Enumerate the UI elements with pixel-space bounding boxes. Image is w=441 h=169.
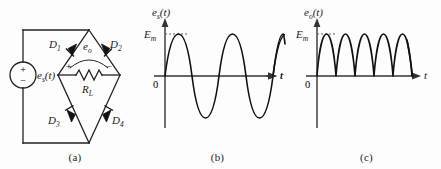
diode-d1-label: D1 xyxy=(48,38,61,53)
figure-container: + − es(t) D1 D2 xyxy=(0,0,441,169)
panel-c-y-axis-label: eo(t) xyxy=(304,6,323,21)
panel-b-x-axis-label-2: t xyxy=(280,69,284,81)
panel-c-rectified-curve xyxy=(317,34,412,76)
output-plus-sign: + xyxy=(66,61,72,72)
load-resistor-symbol xyxy=(76,70,102,80)
panel-b-caption: (b) xyxy=(140,151,295,163)
panel-c-x-axis-arrowhead xyxy=(412,73,421,80)
source-waveform-svg: es(t) t Em 0 t xyxy=(140,0,295,150)
output-minus-sign: − xyxy=(106,61,112,72)
bridge-circuit-svg: + − es(t) D1 D2 xyxy=(0,0,150,150)
panel-c-origin-label: 0 xyxy=(305,79,310,90)
panel-c-output-waveform: eo(t) t Em 0 (c) xyxy=(292,0,441,169)
diode-d3-label: D3 xyxy=(47,114,60,129)
panel-b-origin-label: 0 xyxy=(153,79,158,90)
branch-d4 xyxy=(89,75,120,143)
panel-a-circuit: + − es(t) D1 D2 xyxy=(0,0,150,169)
panel-c-trailing-stub xyxy=(407,40,413,76)
diode-d4-triangle xyxy=(103,110,111,122)
diode-d3-triangle xyxy=(67,110,75,122)
panel-b-y-axis-label: es(t) xyxy=(152,6,171,21)
panel-c-y-tick-label: Em xyxy=(295,28,309,43)
panel-a-caption: (a) xyxy=(0,151,150,163)
source-minus-sign: − xyxy=(20,75,26,86)
diode-d4-bar xyxy=(104,106,113,111)
output-voltage-label: eo xyxy=(83,40,92,55)
source-label: es(t) xyxy=(37,69,56,84)
diode-d4-label: D4 xyxy=(111,114,124,129)
panel-b-y-axis-arrowhead xyxy=(162,18,169,27)
load-resistor-label: RL xyxy=(81,83,93,98)
output-voltage-arc xyxy=(70,60,108,68)
panel-b-source-waveform: es(t) t Em 0 t (b) xyxy=(140,0,295,169)
panel-b-trailing-stub xyxy=(273,34,285,76)
output-waveform-svg: eo(t) t Em 0 xyxy=(292,0,441,150)
panel-c-y-axis-arrowhead xyxy=(314,18,321,27)
diode-d3-bar xyxy=(65,106,74,111)
diode-d3 xyxy=(65,106,75,123)
panel-c-x-axis-label: t xyxy=(424,69,428,81)
source-plus-sign: + xyxy=(20,64,26,75)
panel-c-caption: (c) xyxy=(292,151,441,163)
panel-b-y-tick-label: Em xyxy=(143,28,157,43)
